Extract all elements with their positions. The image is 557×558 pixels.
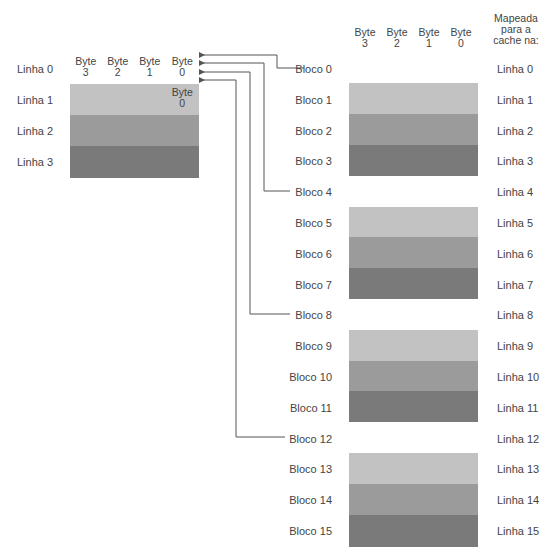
mapped-line-label: Linha 13: [497, 463, 539, 475]
mapped-line-label: Linha 7: [497, 279, 533, 291]
memory-byte-cell: [349, 207, 383, 239]
cache-grid: Byte3Byte2Byte1Byte0Byte0: [70, 53, 199, 178]
memory-byte-cell: [349, 237, 383, 269]
memory-byte-cell: [413, 515, 447, 547]
cache-byte-cell: Byte1: [134, 53, 168, 86]
memory-block-label: Bloco 6: [270, 248, 332, 260]
byte-column-header: Byte0: [445, 27, 477, 49]
byte-column-header: Byte3: [349, 27, 381, 49]
memory-byte-cell: [349, 422, 383, 454]
memory-byte-cell: [381, 453, 415, 485]
memory-byte-cell: [381, 515, 415, 547]
memory-byte-cell: [445, 453, 479, 485]
memory-byte-cell: [349, 299, 383, 331]
cache-byte-cell: [134, 115, 168, 148]
byte-column-header: Byte2: [381, 27, 413, 49]
memory-byte-cell: [349, 391, 383, 423]
memory-byte-cell: [381, 422, 415, 454]
memory-block-label: Bloco 13: [270, 463, 332, 475]
cache-line-label: Linha 2: [17, 125, 53, 137]
memory-byte-cell: [381, 237, 415, 269]
mapped-line-label: Linha 0: [497, 63, 533, 75]
memory-block-label: Bloco 2: [270, 125, 332, 137]
mapped-line-label: Linha 15: [497, 525, 539, 537]
memory-byte-cell: [349, 176, 383, 208]
mapped-line-label: Linha 3: [497, 155, 533, 167]
mapped-line-label: Linha 14: [497, 494, 539, 506]
memory-byte-cell: [413, 422, 447, 454]
memory-byte-cell: [413, 83, 447, 115]
memory-grid: [349, 53, 478, 546]
memory-byte-cell: [381, 361, 415, 393]
mapped-line-label: Linha 11: [497, 402, 538, 414]
cache-byte-cell: Byte3: [70, 53, 104, 86]
mapped-line-label: Linha 12: [497, 433, 539, 445]
cache-byte-cell: [70, 115, 104, 148]
cache-line-label: Linha 3: [17, 156, 53, 168]
memory-byte-cell: [413, 53, 447, 85]
memory-byte-cell: [381, 484, 415, 516]
memory-byte-cell: [381, 114, 415, 146]
memory-byte-cell: [445, 145, 479, 177]
memory-byte-cell: [413, 114, 447, 146]
mapped-line-label: Linha 6: [497, 248, 533, 260]
memory-byte-cell: [349, 145, 383, 177]
cache-byte-cell: [102, 115, 136, 148]
memory-byte-cell: [445, 268, 479, 300]
cache-byte-cell: Byte0: [166, 84, 200, 117]
cache-byte-cell: [70, 84, 104, 117]
mapped-line-label: Linha 5: [497, 217, 533, 229]
cache-line-label: Linha 1: [17, 94, 53, 106]
cache-byte-cell: [134, 146, 168, 179]
mapped-line-label: Linha 4: [497, 186, 533, 198]
memory-byte-cell: [445, 83, 479, 115]
memory-byte-cell: [381, 83, 415, 115]
memory-block-label: Bloco 15: [270, 525, 332, 537]
memory-byte-cell: [349, 453, 383, 485]
memory-byte-cell: [413, 453, 447, 485]
memory-block-label: Bloco 5: [270, 217, 332, 229]
memory-byte-cell: [349, 114, 383, 146]
memory-byte-cell: [445, 114, 479, 146]
memory-block-label: Bloco 1: [270, 94, 332, 106]
memory-block-label: Bloco 7: [270, 279, 332, 291]
memory-byte-cell: [445, 361, 479, 393]
memory-byte-cell: [413, 299, 447, 331]
memory-byte-cell: [349, 515, 383, 547]
cache-byte-cell: Byte0: [166, 53, 200, 86]
memory-byte-cell: [349, 484, 383, 516]
memory-byte-cell: [381, 145, 415, 177]
memory-block-label: Bloco 12: [270, 433, 332, 445]
mapped-line-label: Linha 1: [497, 94, 533, 106]
mapped-line-label: Linha 10: [497, 371, 539, 383]
memory-block-label: Bloco 9: [270, 340, 332, 352]
cache-byte-cell: [102, 84, 136, 117]
memory-byte-cell: [349, 53, 383, 85]
cache-line-label: Linha 0: [17, 63, 53, 75]
memory-block-label: Bloco 8: [270, 309, 332, 321]
memory-byte-cell: [349, 268, 383, 300]
memory-byte-cell: [381, 268, 415, 300]
memory-byte-cell: [445, 299, 479, 331]
memory-byte-cell: [381, 176, 415, 208]
memory-byte-cell: [413, 330, 447, 362]
memory-byte-cell: [413, 268, 447, 300]
memory-byte-cell: [445, 176, 479, 208]
memory-byte-cell: [413, 176, 447, 208]
memory-byte-cell: [349, 83, 383, 115]
cache-byte-cell: [134, 84, 168, 117]
byte-column-header: Byte1: [413, 27, 445, 49]
memory-byte-cell: [413, 237, 447, 269]
mapped-to-header: Mapeadapara acache na:: [485, 13, 547, 46]
cache-byte-cell: [166, 146, 200, 179]
mapped-line-label: Linha 8: [497, 309, 533, 321]
memory-byte-cell: [445, 330, 479, 362]
memory-byte-cell: [381, 207, 415, 239]
memory-byte-cell: [381, 330, 415, 362]
memory-byte-cell: [413, 145, 447, 177]
memory-byte-cell: [381, 53, 415, 85]
memory-block-label: Bloco 11: [270, 402, 332, 414]
memory-byte-cell: [413, 484, 447, 516]
memory-byte-cell: [381, 391, 415, 423]
memory-block-label: Bloco 3: [270, 155, 332, 167]
